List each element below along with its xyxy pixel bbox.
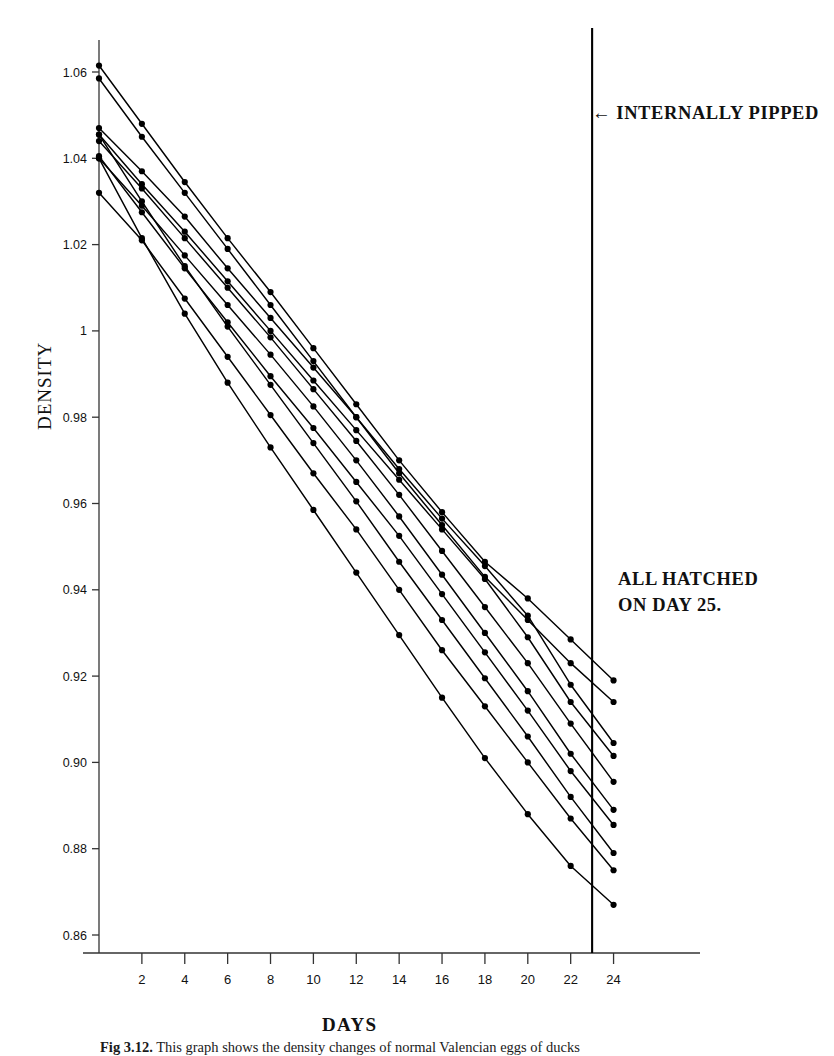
data-point (568, 699, 574, 705)
data-point (267, 328, 273, 334)
y-tick-label: 0.88 (63, 842, 87, 856)
y-tick-label: 1.04 (63, 152, 87, 166)
data-point (96, 62, 102, 68)
data-point (96, 190, 102, 196)
data-point (525, 759, 531, 765)
x-tick-label: 14 (392, 972, 406, 987)
data-point (139, 185, 145, 191)
y-tick-label: 1.06 (63, 66, 87, 80)
data-point (396, 513, 402, 519)
figure-caption: Fig 3.12. This graph shows the density c… (100, 1039, 820, 1056)
data-point (396, 533, 402, 539)
data-point (353, 401, 359, 407)
data-point (396, 492, 402, 498)
data-point (610, 779, 616, 785)
data-line (99, 135, 614, 853)
data-point (525, 733, 531, 739)
data-point (139, 121, 145, 127)
data-point (610, 850, 616, 856)
data-point (182, 179, 188, 185)
data-point (225, 235, 231, 241)
data-point (396, 466, 402, 472)
data-point (525, 811, 531, 817)
y-tick-label: 0.86 (63, 929, 87, 943)
data-point (610, 902, 616, 908)
data-point (182, 235, 188, 241)
data-point (610, 867, 616, 873)
data-point (353, 438, 359, 444)
data-point (439, 516, 445, 522)
data-point (568, 682, 574, 688)
y-tick-label: 1.02 (63, 238, 87, 252)
data-point (439, 695, 445, 701)
x-tick-label: 22 (563, 972, 577, 987)
data-point (182, 190, 188, 196)
y-axis-title: DENSITY (34, 342, 56, 430)
data-point (610, 753, 616, 759)
data-point (525, 595, 531, 601)
caption-label: Fig 3.12. (100, 1039, 153, 1055)
arrow-left-icon: ← (592, 103, 611, 123)
data-point (439, 526, 445, 532)
data-point (353, 457, 359, 463)
data-point (353, 479, 359, 485)
data-point (482, 649, 488, 655)
data-line (99, 156, 614, 825)
data-point (139, 198, 145, 204)
data-point (610, 807, 616, 813)
data-point (568, 660, 574, 666)
data-point (439, 647, 445, 653)
data-point (225, 354, 231, 360)
data-point (568, 751, 574, 757)
data-point (139, 168, 145, 174)
data-point (568, 863, 574, 869)
data-point (525, 634, 531, 640)
data-point (439, 548, 445, 554)
data-point (267, 315, 273, 321)
data-point (439, 572, 445, 578)
data-point (96, 75, 102, 81)
data-point (525, 708, 531, 714)
data-point (139, 209, 145, 215)
data-point (267, 444, 273, 450)
y-tick-label: 0.90 (63, 756, 87, 770)
data-point (225, 285, 231, 291)
data-point (396, 587, 402, 593)
data-point (568, 720, 574, 726)
data-point (182, 311, 188, 317)
caption-text: This graph shows the density changes of … (153, 1039, 580, 1055)
y-tick-label: 0.94 (63, 583, 87, 597)
data-point (182, 229, 188, 235)
data-point (182, 295, 188, 301)
data-point (482, 563, 488, 569)
data-point (139, 235, 145, 241)
x-tick-label: 16 (435, 972, 449, 987)
x-tick-label: 2 (138, 972, 145, 987)
data-line (99, 78, 614, 702)
data-point (353, 498, 359, 504)
data-point (267, 289, 273, 295)
x-tick-label: 12 (349, 972, 363, 987)
data-point (225, 323, 231, 329)
data-point (182, 263, 188, 269)
data-point (310, 358, 316, 364)
data-point (568, 815, 574, 821)
data-point (310, 377, 316, 383)
data-point (439, 509, 445, 515)
data-point (353, 569, 359, 575)
data-point (568, 794, 574, 800)
data-point (267, 302, 273, 308)
y-tick-label: 0.96 (63, 497, 87, 511)
x-tick-label: 4 (181, 972, 188, 987)
data-point (525, 613, 531, 619)
data-point (482, 630, 488, 636)
internally-pipped-annotation: ← INTERNALLY PIPPED (592, 100, 819, 126)
data-point (96, 125, 102, 131)
data-point (525, 688, 531, 694)
data-line (99, 66, 614, 681)
internally-pipped-label: INTERNALLY PIPPED (616, 103, 819, 123)
data-point (182, 252, 188, 258)
data-point (267, 334, 273, 340)
y-tick-label: 0.98 (63, 411, 87, 425)
data-point (353, 427, 359, 433)
